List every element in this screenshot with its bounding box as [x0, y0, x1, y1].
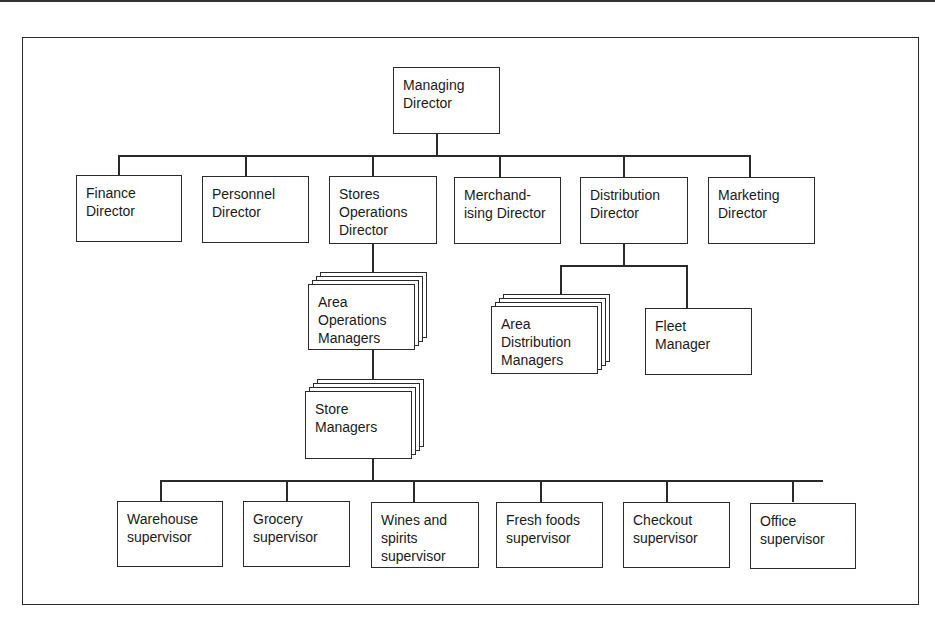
connector	[372, 244, 374, 272]
connector	[666, 480, 668, 502]
store-managers-stack: Store Managers	[305, 379, 427, 461]
connector	[118, 155, 749, 157]
fresh-foods-supervisor-box: Fresh foods supervisor	[496, 502, 603, 568]
checkout-supervisor-box: Checkout supervisor	[623, 502, 730, 568]
grocery-supervisor-box: Grocery supervisor	[243, 501, 350, 567]
distribution-director-label: Distribution Director	[590, 186, 687, 222]
fleet-manager-label: Fleet Manager	[655, 317, 751, 353]
area-operations-managers-stack: Area Operations Managers	[308, 272, 428, 352]
marketing-director-box: Marketing Director	[708, 177, 815, 244]
grocery-supervisor-label: Grocery supervisor	[253, 510, 349, 546]
connector	[499, 155, 501, 177]
connector	[436, 133, 438, 155]
wines-spirits-supervisor-label: Wines and spirits supervisor	[381, 511, 478, 565]
store-managers-label: Store Managers	[315, 400, 411, 436]
connector	[623, 155, 625, 177]
connector	[160, 480, 162, 501]
area-distribution-managers-stack: Area Distribution Managers	[491, 294, 613, 376]
office-supervisor-box: Office supervisor	[750, 503, 856, 569]
personnel-director-label: Personnel Director	[212, 185, 308, 221]
wines-spirits-supervisor-box: Wines and spirits supervisor	[371, 502, 479, 568]
marketing-director-label: Marketing Director	[718, 186, 814, 222]
area-operations-managers-box: Area Operations Managers	[308, 284, 415, 350]
fresh-foods-supervisor-label: Fresh foods supervisor	[506, 511, 602, 547]
warehouse-supervisor-label: Warehouse supervisor	[127, 510, 222, 546]
connector	[560, 265, 562, 295]
connector	[540, 480, 542, 502]
fleet-manager-box: Fleet Manager	[645, 308, 752, 375]
connector	[118, 155, 120, 175]
connector	[686, 265, 688, 309]
warehouse-supervisor-box: Warehouse supervisor	[117, 501, 223, 567]
managing-director-label: Managing Director	[403, 76, 499, 112]
connector	[560, 265, 686, 267]
area-distribution-managers-box: Area Distribution Managers	[491, 306, 598, 374]
connector	[372, 155, 374, 176]
connector	[245, 155, 247, 176]
area-operations-managers-label: Area Operations Managers	[318, 293, 414, 347]
connector	[413, 480, 415, 502]
office-supervisor-label: Office supervisor	[760, 512, 855, 548]
managing-director-box: Managing Director	[393, 67, 500, 134]
connector	[372, 459, 374, 481]
stores-operations-director-box: Stores Operations Director	[329, 176, 437, 244]
connector	[372, 350, 374, 380]
merchandising-director-box: Merchand- ising Director	[454, 177, 561, 244]
finance-director-label: Finance Director	[86, 184, 181, 220]
checkout-supervisor-label: Checkout supervisor	[633, 511, 729, 547]
distribution-director-box: Distribution Director	[580, 177, 688, 244]
connector	[792, 480, 794, 502]
personnel-director-box: Personnel Director	[202, 176, 309, 243]
area-distribution-managers-label: Area Distribution Managers	[501, 315, 597, 369]
connector	[286, 480, 288, 501]
finance-director-box: Finance Director	[76, 175, 182, 242]
merchandising-director-label: Merchand- ising Director	[464, 186, 560, 222]
connector	[160, 480, 823, 482]
connector	[749, 155, 751, 177]
top-rule	[0, 0, 935, 2]
stores-operations-director-label: Stores Operations Director	[339, 185, 436, 239]
store-managers-box: Store Managers	[305, 391, 412, 459]
connector	[623, 244, 625, 266]
